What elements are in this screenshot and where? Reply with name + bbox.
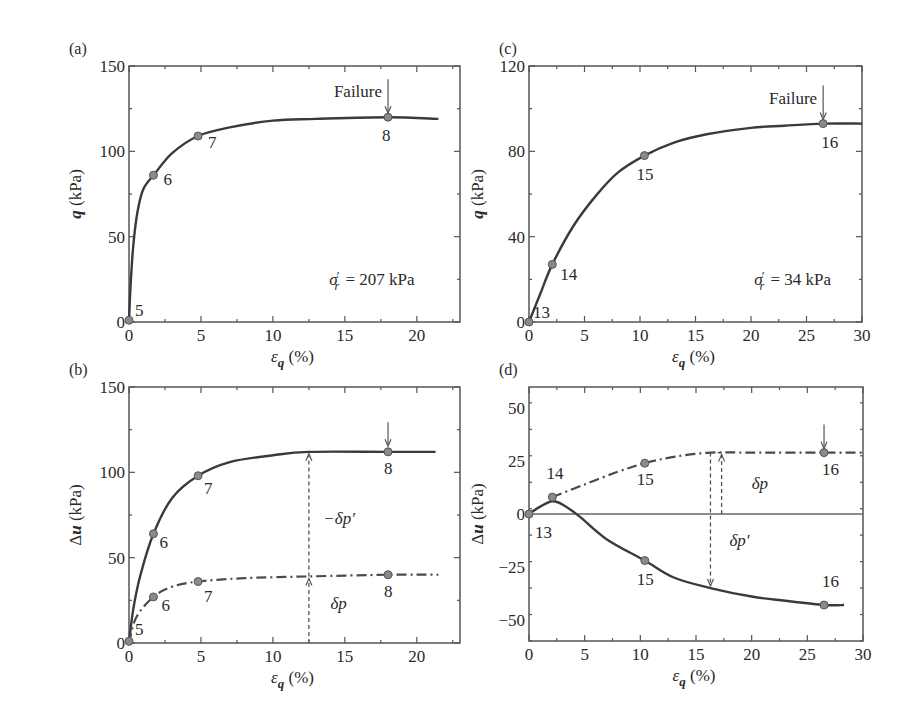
data-point-marker bbox=[640, 152, 648, 160]
data-point-marker bbox=[194, 472, 202, 480]
x-axis-label: εq (%) bbox=[672, 347, 715, 370]
x-tick-label: 20 bbox=[743, 326, 760, 345]
point-label: 15 bbox=[637, 470, 654, 489]
point-label: 8 bbox=[384, 459, 393, 478]
point-label: 13 bbox=[535, 523, 552, 542]
x-tick-label: 10 bbox=[264, 326, 281, 345]
delta-p-label: δp′ bbox=[729, 531, 749, 550]
y-tick-label: 50 bbox=[508, 399, 525, 418]
x-tick-label: 5 bbox=[197, 647, 206, 666]
point-label: 16 bbox=[822, 460, 839, 479]
delta-p-label: δp bbox=[752, 474, 768, 493]
point-label: 8 bbox=[382, 126, 391, 145]
x-tick-label: 15 bbox=[336, 326, 353, 345]
x-tick-label: 15 bbox=[688, 645, 705, 664]
panel-label: (a) bbox=[69, 40, 87, 58]
panel-d: (d)051015202530−50−2502550εq (%)Δu (kPa)… bbox=[468, 361, 872, 689]
total-stress-curve bbox=[552, 452, 863, 497]
y-tick-label: 150 bbox=[100, 378, 126, 397]
x-tick-label: 0 bbox=[525, 645, 534, 664]
y-tick-label: 25 bbox=[508, 452, 525, 471]
figure: (a)05101520050100150εq (%)q (kPa)5678Fai… bbox=[0, 0, 915, 727]
y-tick-label: −25 bbox=[498, 558, 525, 577]
x-tick-label: 30 bbox=[855, 645, 872, 664]
point-label: 15 bbox=[636, 165, 653, 184]
data-point-marker bbox=[149, 171, 157, 179]
data-point-marker bbox=[525, 318, 533, 326]
main-curve bbox=[529, 501, 844, 605]
y-axis-label: Δu (kPa) bbox=[468, 483, 487, 544]
x-tick-label: 25 bbox=[799, 645, 816, 664]
point-label: 14 bbox=[560, 265, 578, 284]
point-label: 8 bbox=[384, 582, 393, 601]
x-tick-label: 0 bbox=[125, 326, 134, 345]
x-tick-label: 10 bbox=[632, 645, 649, 664]
delta-p-label: −δp′ bbox=[323, 509, 355, 528]
confining-stress-label: σ′r = 207 kPa bbox=[329, 268, 415, 293]
point-label: 13 bbox=[533, 303, 550, 322]
point-label: 5 bbox=[135, 620, 144, 639]
x-tick-label: 20 bbox=[743, 645, 760, 664]
y-tick-label: −50 bbox=[498, 611, 525, 630]
data-point-marker bbox=[194, 578, 202, 586]
panel-label: (b) bbox=[69, 361, 88, 379]
main-curve bbox=[129, 452, 436, 643]
failure-label: Failure bbox=[769, 89, 817, 108]
point-label: 15 bbox=[637, 570, 654, 589]
x-axis-label: εq (%) bbox=[271, 347, 314, 370]
data-point-marker bbox=[149, 593, 157, 601]
point-label: 7 bbox=[204, 479, 213, 498]
point-label: 6 bbox=[159, 533, 168, 552]
y-tick-label: 40 bbox=[508, 228, 525, 247]
y-tick-label: 50 bbox=[108, 228, 125, 247]
point-label: 7 bbox=[208, 133, 217, 152]
x-tick-label: 15 bbox=[336, 647, 353, 666]
x-tick-label: 10 bbox=[632, 326, 649, 345]
data-point-marker bbox=[548, 260, 556, 268]
panel-c: (c)05101520253004080120εq (%)q (kPa)1314… bbox=[468, 40, 871, 370]
y-tick-label: 80 bbox=[508, 142, 525, 161]
point-label: 16 bbox=[822, 572, 839, 591]
data-point-marker bbox=[149, 530, 157, 538]
arrow-up-icon bbox=[719, 455, 725, 462]
data-point-marker bbox=[641, 459, 649, 467]
y-tick-label: 100 bbox=[100, 142, 126, 161]
data-point-marker bbox=[384, 571, 392, 579]
x-axis-label: εq (%) bbox=[271, 668, 314, 691]
plot-frame bbox=[129, 387, 460, 643]
y-axis-label: q (kPa) bbox=[468, 169, 487, 219]
y-tick-label: 120 bbox=[500, 57, 526, 76]
main-curve bbox=[129, 117, 438, 322]
data-point-marker bbox=[548, 493, 556, 501]
y-axis-label: Δu (kPa) bbox=[66, 484, 85, 545]
panel-label: (d) bbox=[499, 361, 518, 379]
y-tick-label: 100 bbox=[100, 463, 126, 482]
x-tick-label: 0 bbox=[125, 647, 134, 666]
data-point-marker bbox=[641, 557, 649, 565]
x-tick-label: 10 bbox=[264, 647, 281, 666]
x-tick-label: 5 bbox=[580, 645, 589, 664]
data-point-marker bbox=[125, 637, 133, 645]
x-tick-label: 5 bbox=[197, 326, 206, 345]
point-label: 16 bbox=[821, 133, 838, 152]
data-point-marker bbox=[525, 510, 533, 518]
point-label: 6 bbox=[163, 170, 172, 189]
x-tick-label: 0 bbox=[525, 326, 534, 345]
y-tick-label: 0 bbox=[117, 634, 126, 653]
data-point-marker bbox=[194, 132, 202, 140]
point-label: 7 bbox=[204, 587, 213, 606]
x-tick-label: 20 bbox=[408, 647, 425, 666]
y-tick-label: 0 bbox=[117, 313, 126, 332]
data-point-marker bbox=[820, 601, 828, 609]
x-tick-label: 5 bbox=[580, 326, 589, 345]
x-tick-label: 30 bbox=[854, 326, 871, 345]
x-tick-label: 20 bbox=[408, 326, 425, 345]
confining-stress-label: σ′r = 34 kPa bbox=[754, 268, 831, 293]
point-label: 6 bbox=[161, 596, 170, 615]
point-label: 14 bbox=[546, 464, 564, 483]
y-tick-label: 0 bbox=[517, 313, 526, 332]
panel-b: (b)05101520050100150εq (%)Δu (kPa)567867… bbox=[66, 361, 460, 691]
delta-p-label: δp bbox=[330, 594, 346, 613]
x-tick-label: 25 bbox=[798, 326, 815, 345]
point-label: 5 bbox=[135, 301, 144, 320]
